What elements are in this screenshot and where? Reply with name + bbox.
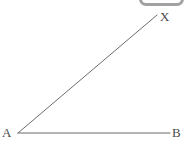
vertex-label-x: X (160, 10, 169, 23)
vertex-label-b: B (172, 126, 181, 139)
ray-ax (18, 15, 157, 133)
vertex-label-a: A (2, 126, 11, 139)
diagram-canvas: A B X (0, 0, 188, 144)
clipped-chip-icon (139, 0, 184, 6)
